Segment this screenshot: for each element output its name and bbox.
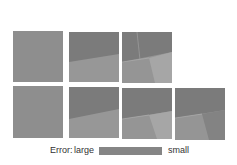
three-region-graphic — [122, 88, 172, 139]
legend-low-label: large — [74, 145, 94, 155]
legend-high-label: small — [168, 145, 189, 155]
panel-row1-col2 — [69, 32, 119, 82]
panel-row2-col3 — [122, 88, 172, 139]
two-region-graphic — [69, 87, 119, 138]
legend-colorbar — [99, 147, 162, 155]
legend-label: Error: — [50, 145, 73, 155]
two-region-graphic — [69, 32, 119, 82]
panel-row1-col1 — [13, 31, 63, 82]
uniform-region-graphic — [13, 86, 63, 138]
panel-row2-col4 — [175, 88, 225, 140]
uniform-region-graphic — [13, 31, 63, 82]
panel-row1-col3 — [122, 32, 172, 83]
three-region-graphic — [175, 88, 225, 140]
panel-row2-col1 — [13, 86, 63, 138]
panel-row2-col2 — [69, 87, 119, 138]
four-region-graphic — [122, 32, 172, 83]
